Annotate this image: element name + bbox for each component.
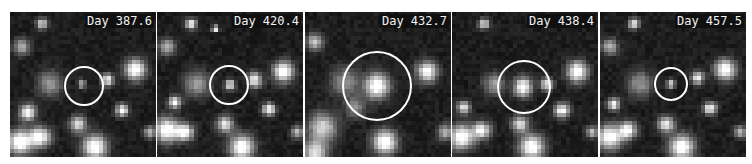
- day-label: Day 432.7: [380, 14, 449, 28]
- day-label: Day 387.6: [85, 14, 154, 28]
- image-panel-day-438-4: Day 438.4: [452, 12, 598, 157]
- target-circle-marker: [342, 51, 412, 121]
- image-panel-day-457-5: Day 457.5: [600, 12, 746, 157]
- target-circle-marker: [64, 66, 104, 106]
- image-panel-day-387-6: Day 387.6: [10, 12, 156, 157]
- target-circle-marker: [209, 65, 249, 105]
- day-label: Day 420.4: [232, 14, 301, 28]
- image-sequence-strip: Day 387.6 Day 420.4 Day 432.7 Day 438.4 …: [0, 0, 752, 164]
- day-label: Day 457.5: [675, 14, 744, 28]
- image-panel-day-432-7: Day 432.7: [305, 12, 451, 157]
- day-label: Day 438.4: [527, 14, 596, 28]
- target-circle-marker: [497, 60, 551, 114]
- image-panel-day-420-4: Day 420.4: [157, 12, 303, 157]
- target-circle-marker: [654, 67, 688, 101]
